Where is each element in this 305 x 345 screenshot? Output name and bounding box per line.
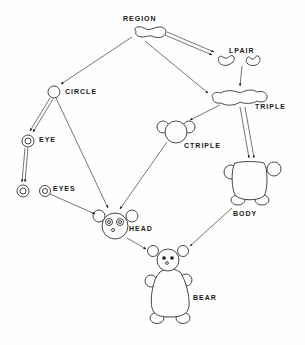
head-face: [102, 213, 128, 239]
label-region: REGION: [123, 15, 157, 22]
edge-ctriple-head: [120, 142, 167, 209]
bear-right-ear: [178, 246, 189, 257]
edge-circle-eye-a: [30, 98, 50, 131]
eye-shape-outer: [22, 135, 34, 147]
body-right-arm: [267, 162, 281, 176]
bear-torso: [151, 269, 189, 317]
eye-shape-inner: [25, 138, 31, 144]
edge-region-lpair-b: [165, 35, 212, 55]
label-body: BODY: [233, 210, 257, 217]
edge-head-bear: [127, 238, 146, 249]
bear-head: [157, 249, 179, 271]
edge-circle-eye-b: [33, 99, 53, 132]
diagram-drawing: [0, 0, 305, 345]
label-triple: TRIPLE: [255, 103, 286, 110]
edge-body-bear: [190, 208, 232, 246]
label-bear: BEAR: [193, 294, 217, 301]
lpair-left-shape: [218, 56, 234, 66]
body-torso: [232, 162, 267, 200]
label-eye: EYE: [39, 136, 56, 143]
edge-eye-eyes-a: [22, 148, 25, 182]
edge-eyes-head: [50, 194, 95, 214]
edge-region-lpair-a: [167, 32, 214, 52]
edge-triple-body-b: [245, 107, 254, 158]
ctriple-center: [165, 121, 187, 143]
edge-triple-ctriple: [190, 105, 220, 120]
edge-region-triple: [145, 41, 208, 93]
edge-lpair-triple: [240, 66, 242, 86]
eyes-shape-outer: [40, 186, 51, 197]
edge-eye-eyes-b: [25, 148, 28, 182]
eyes-shape-inner: [43, 189, 48, 194]
region-shape: [135, 27, 166, 38]
bear-composition-diagram: REGION LPAIR TRIPLE CIRCLE EYE EYES CTRI…: [0, 0, 305, 345]
bear-left-ear: [148, 246, 159, 257]
label-head: HEAD: [129, 225, 153, 232]
eye-copy-inner: [20, 188, 26, 194]
label-ctriple: CTRIPLE: [184, 142, 221, 149]
label-eyes: EYES: [53, 185, 76, 192]
eye-copy-outer: [17, 185, 29, 197]
label-circle: CIRCLE: [65, 88, 97, 95]
bear-left-eye: [162, 256, 166, 260]
edge-region-circle: [61, 37, 132, 84]
edge-triple-body-a: [240, 107, 249, 158]
circle-shape: [48, 86, 60, 98]
lpair-right-shape: [246, 56, 260, 66]
head-right-ear: [126, 210, 138, 222]
bear-right-eye: [170, 256, 174, 260]
label-lpair: LPAIR: [229, 47, 254, 54]
